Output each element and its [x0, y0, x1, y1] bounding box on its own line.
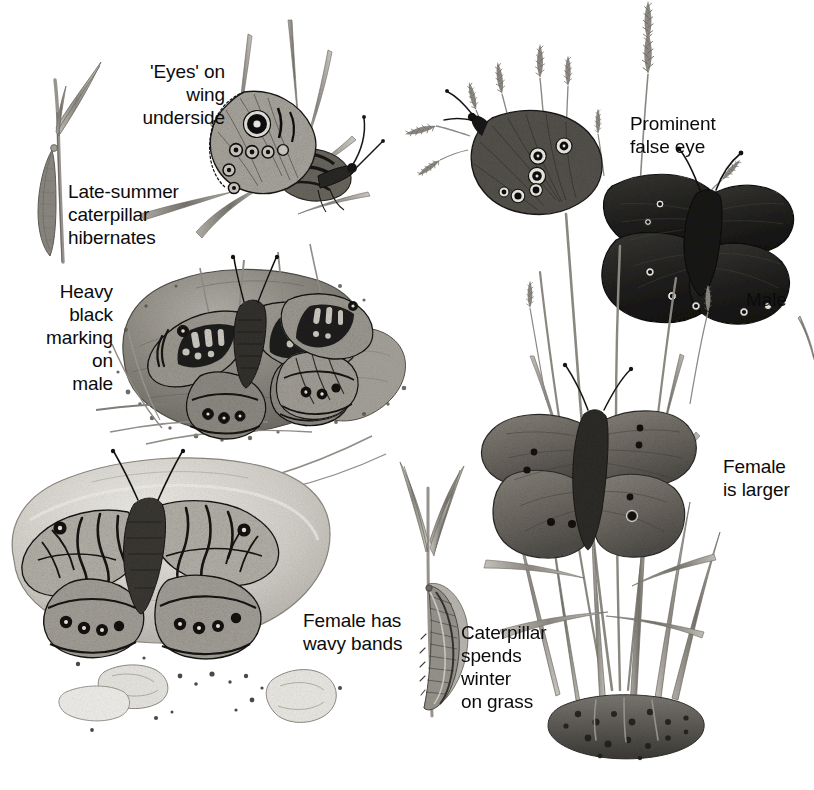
label-heavy-black-marking-on-male: Heavy black marking on male — [46, 280, 113, 395]
illustration-plate: 'Eyes' on wing underside Late-summer cat… — [0, 0, 814, 790]
label-eyes-on-wing-underside: 'Eyes' on wing underside — [142, 60, 225, 129]
label-female-is-larger: Female is larger — [723, 455, 790, 501]
label-caterpillar-spends-winter-on-grass: Caterpillar spends winter on grass — [461, 621, 547, 713]
label-female-has-wavy-bands: Female has wavy bands — [303, 609, 402, 655]
label-prominent-false-eye: Prominent false eye — [630, 112, 716, 158]
label-male: Male — [746, 288, 787, 311]
label-late-summer-caterpillar-hibernates: Late-summer caterpillar hibernates — [68, 180, 179, 249]
